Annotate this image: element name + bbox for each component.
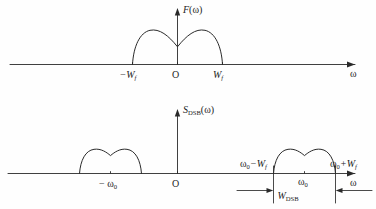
panel-dsb: SDSB(ω) − ω0 O ω0 ω0−Wf ω0+Wf WDSB ω — [8, 104, 372, 203]
dsb-title-sub: DSB — [188, 109, 201, 116]
baseband-vaxis-arrow-icon — [175, 8, 180, 16]
baseband-axis-arrow-icon — [347, 62, 355, 68]
baseband-title: F(ω) — [182, 4, 202, 16]
baseband-tick-label-right: Wf — [213, 69, 224, 81]
dsb-left-center-label: − ω0 — [99, 178, 118, 190]
baseband-tick-label-left: −Wf — [120, 69, 138, 81]
dsb-spectra-figure: F(ω) −Wf O Wf ω — [0, 0, 376, 209]
dsb-origin-label: O — [172, 178, 179, 189]
dsb-bandwidth-dim-right-arrow-icon — [336, 188, 343, 193]
dsb-title-paren: (ω) — [201, 104, 214, 116]
dsb-title: SDSB(ω) — [183, 104, 214, 116]
panel-baseband: F(ω) −Wf O Wf ω — [10, 4, 357, 81]
dsb-left-lobe-curve — [80, 149, 142, 173]
dsb-right-center-label: ω0 — [298, 176, 309, 188]
dsb-vaxis-arrow-icon — [175, 109, 180, 117]
dsb-edge-left-label: ω0−Wf — [240, 158, 268, 170]
baseband-origin-label: O — [172, 69, 179, 80]
dsb-right-lobe-curve — [274, 149, 336, 173]
dsb-edge-right-label: ω0+Wf — [330, 158, 358, 170]
dsb-bandwidth-dim-left-arrow-icon — [267, 188, 274, 193]
dsb-bandwidth-label: WDSB — [277, 190, 299, 202]
dsb-axis-label: ω — [350, 177, 357, 188]
dsb-axis-arrow-icon — [347, 171, 355, 177]
baseband-axis-label: ω — [350, 68, 357, 79]
baseband-title-paren: (ω) — [189, 4, 202, 16]
